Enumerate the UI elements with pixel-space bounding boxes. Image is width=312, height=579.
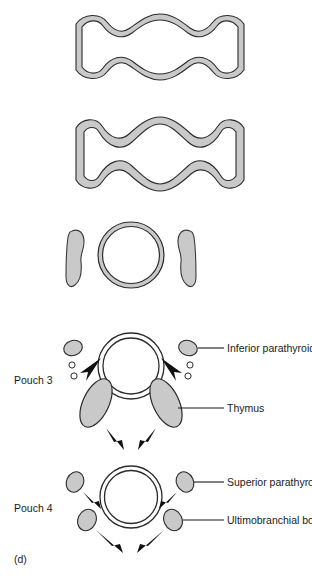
ultimobranchial-body-right — [160, 506, 186, 534]
superior-parathyroid-left — [63, 469, 87, 495]
migration-dot-left-1 — [69, 362, 75, 368]
stage-3-trachea-and-masses — [66, 222, 196, 288]
migration-arrow-left-lower-p4 — [96, 530, 123, 553]
trachea-ring-pouch-4 — [100, 466, 162, 528]
migration-dot-right-1 — [187, 362, 193, 368]
stage-2-pharyngeal-wall — [76, 117, 244, 191]
trachea-inner-ring — [105, 471, 158, 524]
thymus-descent-arrow-right — [138, 428, 156, 450]
pouch-3-label: Pouch 3 — [14, 374, 53, 386]
pouch-4-label: Pouch 4 — [14, 502, 53, 514]
figure-panel-label: (d) — [14, 553, 27, 565]
label-superior-parathyroid: Superior parathyroid — [227, 476, 312, 488]
inferior-parathyroid-left — [62, 338, 85, 359]
migration-dot-left-2 — [71, 373, 77, 379]
migration-dot-right-2 — [185, 373, 191, 379]
stage-1-pharyngeal-wall — [76, 14, 244, 80]
label-ultimobranchial-body: Ultimobranchial body — [227, 514, 312, 526]
trachea-ring-stage-3 — [98, 222, 164, 288]
inferior-parathyroid-right — [177, 338, 200, 359]
thymus-descent-arrow-left — [106, 428, 124, 450]
label-inferior-parathyroid: Inferior parathyroid — [227, 342, 312, 354]
trachea-inner-ring — [103, 227, 160, 284]
label-thymus: Thymus — [227, 402, 264, 414]
pouch-3-panel: Pouch 3 — [14, 333, 312, 450]
figure-container: Pouch 3 — [0, 0, 312, 579]
migration-arrow-right-lower-p4 — [137, 530, 164, 553]
superior-parathyroid-right — [173, 469, 197, 495]
pouch-4-panel: Pouch 4 Superior parathyroid — [14, 466, 312, 553]
ultimobranchial-body-left — [74, 506, 100, 534]
anatomical-diagram-canvas: Pouch 3 — [0, 0, 312, 579]
migration-arrow-left-upper-p4 — [83, 492, 101, 509]
lateral-mass-left — [66, 230, 84, 286]
lateral-mass-right — [178, 230, 196, 286]
